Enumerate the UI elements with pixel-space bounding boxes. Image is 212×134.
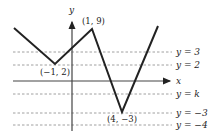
point-label-valley-left: (−1, 2): [40, 67, 70, 77]
graph-diagram: y x (1, 9) (−1, 2) (4, −3) y = 3 y = 2 y…: [0, 0, 212, 134]
dashed-lines: [13, 52, 172, 125]
x-axis-label: x: [176, 76, 181, 86]
label-y-neg4: y = −4: [175, 120, 208, 130]
graph-line: [14, 26, 158, 112]
label-y-3: y = 3: [175, 47, 200, 57]
label-y-neg3: y = −3: [175, 108, 208, 118]
y-axis-label: y: [68, 5, 75, 15]
point-label-peak: (1, 9): [82, 16, 105, 26]
label-y-k: y = k: [175, 89, 200, 99]
point-label-valley-right: (4, −3): [107, 114, 137, 124]
label-y-2: y = 2: [175, 60, 200, 70]
